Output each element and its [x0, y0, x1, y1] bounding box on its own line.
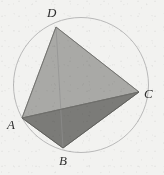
vertex-label-c: C [144, 87, 153, 100]
vertex-label-d: D [47, 6, 56, 19]
vertex-label-a: A [7, 118, 15, 131]
figure-canvas [0, 0, 164, 175]
geometry-figure: D C A B [0, 0, 164, 175]
vertex-label-b: B [59, 154, 67, 167]
